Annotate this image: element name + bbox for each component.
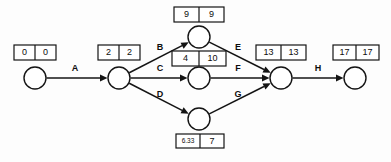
time-box-n5: 6.337	[176, 134, 224, 148]
arrow-head-c	[180, 75, 188, 82]
edge-label-a: A	[72, 63, 79, 73]
time-box-right-value-n7: 17	[362, 47, 372, 57]
edge-a	[47, 75, 108, 82]
edge-line-d	[129, 83, 182, 110]
node-n2[interactable]	[108, 67, 130, 89]
time-box-left-value-n1: 0	[22, 47, 27, 57]
time-box-n4: 410	[172, 51, 226, 66]
time-box-right-value-n4: 10	[207, 53, 217, 63]
time-box-right-value-n6: 13	[288, 47, 298, 57]
time-box-right-value-n3: 9	[209, 9, 214, 19]
node-n3[interactable]	[188, 26, 210, 48]
edge-label-b: B	[157, 42, 164, 52]
time-box-left-value-n5: 6.33	[182, 137, 195, 144]
edge-h	[293, 75, 344, 82]
edge-c	[131, 75, 188, 82]
node-n7[interactable]	[344, 67, 366, 89]
edge-label-d: D	[157, 89, 164, 99]
time-box-n3: 99	[174, 7, 224, 22]
time-box-left-value-n7: 17	[339, 47, 349, 57]
time-box-right-value-n5: 7	[209, 136, 214, 146]
node-n4[interactable]	[188, 67, 210, 89]
node-n1[interactable]	[24, 67, 46, 89]
time-box-n6: 1313	[256, 45, 306, 60]
time-box-n7: 1717	[333, 45, 379, 60]
node-n5[interactable]	[188, 108, 210, 130]
time-box-n2: 22	[98, 45, 140, 60]
time-box-left-value-n2: 2	[106, 47, 111, 57]
arrow-head-a	[100, 75, 108, 82]
arrow-head-f	[262, 75, 270, 82]
edge-label-h: H	[315, 63, 322, 73]
time-box-left-value-n4: 4	[183, 53, 188, 63]
edge-f	[211, 75, 270, 82]
time-box-n1: 00	[14, 45, 56, 60]
network-diagram: 0022994106.33713131717 ABCDEFGH	[0, 0, 391, 162]
diagram-canvas: 0022994106.33713131717 ABCDEFGH	[0, 0, 391, 162]
edge-label-g: G	[234, 89, 241, 99]
node-n6[interactable]	[270, 67, 292, 89]
time-box-left-value-n6: 13	[263, 47, 273, 57]
time-box-right-value-n2: 2	[127, 47, 132, 57]
edge-label-e: E	[235, 42, 241, 52]
edge-label-f: F	[235, 63, 241, 73]
edge-label-c: C	[157, 63, 164, 73]
arrow-head-h	[336, 75, 344, 82]
time-box-left-value-n3: 9	[184, 9, 189, 19]
time-box-right-value-n1: 0	[43, 47, 48, 57]
